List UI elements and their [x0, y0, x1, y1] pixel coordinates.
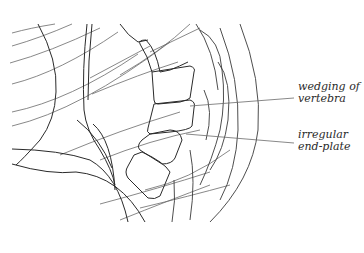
diagram: wedging of vertebra irregular end-plate: [0, 0, 364, 253]
label-wedging: wedging of vertebra: [298, 81, 360, 105]
body-outlines: [12, 24, 148, 222]
label-endplate-line2: end-plate: [298, 141, 350, 153]
posterior-arcs: [172, 24, 259, 222]
spine-drawing: [0, 0, 364, 253]
label-wedging-line2: vertebra: [298, 93, 360, 105]
leader-lines: [186, 98, 294, 143]
vertebrae: [126, 40, 195, 199]
leader-line-wedging: [190, 98, 294, 106]
leader-line-endplate: [186, 134, 294, 143]
label-endplate: irregular end-plate: [298, 129, 350, 153]
